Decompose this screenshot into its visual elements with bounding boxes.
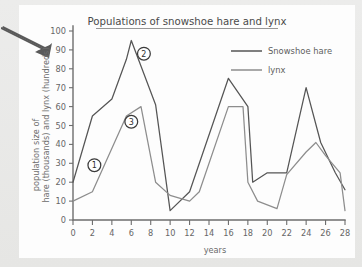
svg-text:1: 1 [92, 161, 97, 170]
svg-text:6: 6 [129, 228, 134, 238]
svg-text:90: 90 [56, 45, 66, 55]
svg-text:18: 18 [243, 228, 253, 238]
svg-text:4: 4 [109, 228, 114, 238]
svg-text:20: 20 [56, 177, 66, 187]
svg-text:28: 28 [340, 228, 350, 238]
x-axis-ticks: 0246810121416182022242628 [70, 220, 350, 238]
svg-text:70: 70 [56, 83, 66, 93]
svg-text:2: 2 [90, 228, 95, 238]
svg-text:26: 26 [320, 228, 330, 238]
chart-title: Populations of snowshoe hare and lynx [88, 16, 287, 27]
svg-text:60: 60 [56, 102, 66, 112]
svg-text:50: 50 [56, 121, 66, 131]
y-axis-ticks: 0102030405060708090100 [50, 26, 73, 225]
svg-text:80: 80 [56, 64, 66, 74]
svg-text:10: 10 [165, 228, 175, 238]
chart-plot-area: Populations of snowshoe hare and lynx 01… [19, 5, 355, 258]
svg-text:100: 100 [50, 26, 66, 36]
svg-text:3: 3 [129, 118, 134, 127]
svg-text:16: 16 [223, 228, 233, 238]
legend-label-lynx: lynx [268, 65, 286, 75]
svg-text:22: 22 [282, 228, 292, 238]
svg-text:12: 12 [184, 228, 194, 238]
svg-text:8: 8 [148, 228, 153, 238]
svg-text:40: 40 [56, 139, 66, 149]
svg-text:30: 30 [56, 158, 66, 168]
y-axis-label-line2: hare (thousands) and lynx (hundreds) [41, 47, 51, 202]
x-axis-label: years [204, 245, 227, 255]
series-line-snowshoe-hare [73, 41, 345, 211]
svg-text:24: 24 [301, 228, 311, 238]
legend-label-snowshoe-hare: Snowshoe hare [268, 46, 332, 56]
svg-text:10: 10 [56, 196, 66, 206]
y-axis-label-line1: population size of [31, 118, 41, 192]
svg-text:20: 20 [262, 228, 272, 238]
svg-text:14: 14 [204, 228, 214, 238]
series-line-lynx [73, 107, 345, 211]
chart-legend: Snowshoe hare lynx [231, 46, 332, 75]
svg-text:0: 0 [61, 215, 66, 225]
svg-text:0: 0 [70, 228, 75, 238]
svg-text:2: 2 [141, 50, 146, 59]
